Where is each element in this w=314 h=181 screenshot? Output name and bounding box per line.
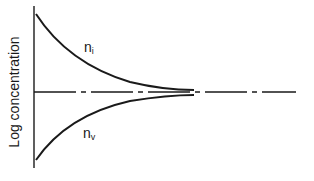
label-nv-base: n <box>83 125 91 141</box>
curve-label-ni: ni <box>84 40 94 56</box>
curve-label-nv: nv <box>83 126 95 142</box>
y-axis-label: Log concentration <box>6 36 22 147</box>
curve-nv <box>36 95 194 160</box>
label-nv-sub: v <box>91 132 96 142</box>
label-ni-sub: i <box>92 46 94 56</box>
diagram-canvas <box>0 0 314 181</box>
curve-ni <box>36 14 194 90</box>
label-ni-base: n <box>84 39 92 55</box>
